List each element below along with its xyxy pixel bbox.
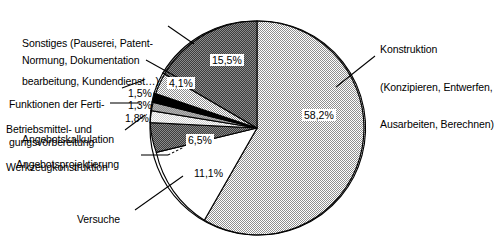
label-normung: Normung, Dokumentation [22,54,139,67]
value-label-normung: 4,1% [167,77,195,89]
value-label-versuche: 11,1% [194,167,223,179]
value-label-angebotsprojektierung: 6,5% [186,134,214,146]
label-angebotsprojektierung: Angebotsprojektierung [16,158,119,171]
label-konstruktion-line1: Konstruktion [380,43,494,56]
label-angebotskalkulation: Angebotskalkulation [22,133,114,146]
value-label-konstruktion: 58,2% [302,109,336,121]
label-konstruktion-line2: (Konzipieren, Entwerfen, [380,81,494,94]
value-label-angebotskalkulation: 1,8% [125,112,149,124]
value-label-betriebsmittel: 1,3% [128,99,152,111]
label-versuche: Versuche [77,213,120,226]
pie-slices [150,21,366,235]
label-sonstiges-line1: Sonstiges (Pauserei, Patent- [22,37,159,50]
value-label-sonstiges: 15,5% [210,54,244,66]
value-label-funktionen: 1,5% [128,87,152,99]
label-betriebsmittel-werkzeugkonstruktion: Betriebsmittel- und Werkzeugkonstruktion [6,98,108,198]
leader-line-sonstiges [168,26,194,44]
label-konstruktion-line3: Ausarbeiten, Berechnen) [380,118,494,131]
label-konstruktion: Konstruktion (Konzipieren, Entwerfen, Au… [380,18,494,156]
